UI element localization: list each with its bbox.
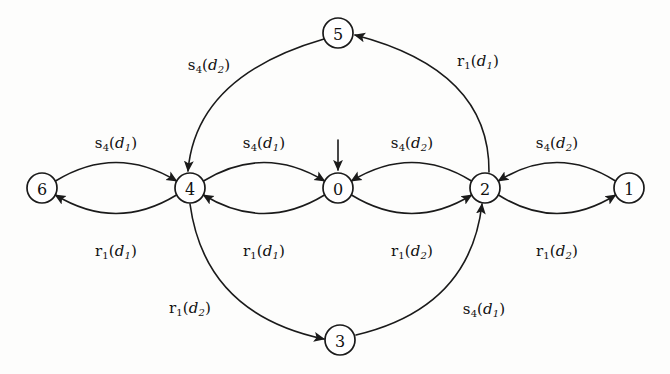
state-node-2-label: 2 — [480, 180, 490, 199]
edge-0-to-4 — [204, 195, 325, 214]
edge-label-5-to-4: s4(d2) — [188, 58, 230, 73]
edge-label-4-to-3: r1(d2) — [169, 301, 211, 316]
state-node-6-label: 6 — [37, 180, 47, 199]
edge-0-to-2 — [352, 195, 472, 214]
edge-label-2-to-5: r1(d1) — [457, 54, 499, 69]
edge-2-to-1 — [499, 195, 616, 214]
edge-4-to-0 — [204, 163, 325, 182]
edge-label-0-to-4: r1(d1) — [243, 244, 285, 259]
edge-label-2-to-1: r1(d2) — [536, 244, 578, 259]
state-node-1-label: 1 — [624, 180, 634, 199]
state-node-4-label: 4 — [185, 180, 195, 199]
state-node-0-label: 0 — [333, 180, 343, 199]
edge-label-3-to-2: s4(d1) — [463, 302, 505, 317]
edge-label-4-to-6: r1(d1) — [95, 244, 137, 259]
edge-4-to-3 — [190, 204, 324, 339]
edge-6-to-4 — [56, 163, 177, 182]
state-diagram: 6 4 0 2 1 5 3 s4(d1) r1(d1) s4(d1) r1(d1… — [0, 0, 670, 374]
edge-label-6-to-4: s4(d1) — [95, 136, 137, 151]
state-diagram-canvas: 6 4 0 2 1 5 3 — [0, 0, 670, 374]
edge-4-to-6 — [56, 195, 177, 214]
state-node-5-label: 5 — [333, 25, 343, 44]
edge-1-to-2 — [499, 163, 616, 182]
state-node-3-label: 3 — [335, 332, 345, 351]
edge-label-4-to-0: s4(d1) — [243, 136, 285, 151]
edge-label-1-to-2: s4(d2) — [536, 136, 578, 151]
edge-label-0-to-2: r1(d2) — [391, 244, 433, 259]
edge-2-to-0 — [352, 163, 472, 182]
edge-label-2-to-0: s4(d2) — [391, 136, 433, 151]
